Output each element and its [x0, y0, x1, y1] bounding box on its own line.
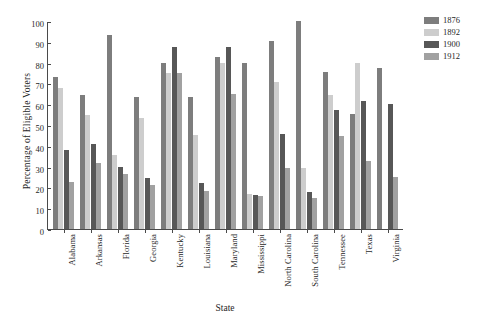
bar-group [107, 22, 129, 229]
y-tick-label: 50 [36, 123, 49, 133]
bar-1892[interactable] [355, 63, 360, 229]
bar-1912[interactable] [204, 191, 209, 229]
bar-1900[interactable] [361, 101, 366, 229]
y-tick-100: 100 [31, 13, 48, 31]
bar-1912[interactable] [123, 174, 128, 229]
bar-1876[interactable] [161, 63, 166, 229]
bar-1900[interactable] [199, 183, 204, 229]
bar-1912[interactable] [69, 182, 74, 229]
x-category-label: Alabama [67, 234, 77, 265]
bar-1876[interactable] [323, 72, 328, 229]
bar-1892[interactable] [274, 82, 279, 229]
bar-1892[interactable] [58, 88, 63, 229]
x-category-label: Louisiana [202, 234, 212, 268]
bar-1892[interactable] [328, 95, 333, 229]
bar-1876[interactable] [242, 63, 247, 229]
bar-group [296, 22, 318, 229]
bar-1900[interactable] [64, 150, 69, 229]
bar-1912[interactable] [231, 94, 236, 229]
x-category-label: Texas [364, 234, 374, 254]
legend-label: 1892 [443, 28, 460, 37]
x-tick-mark [64, 230, 65, 233]
bar-1876[interactable] [215, 57, 220, 229]
legend-label: 1876 [443, 16, 460, 25]
plot-area: 1009080706050403020100 [47, 22, 403, 230]
bar-1912[interactable] [96, 163, 101, 229]
y-tick-label: 60 [36, 102, 49, 112]
bar-group [215, 22, 237, 229]
bar-1912[interactable] [366, 161, 371, 229]
x-category-label: Georgia [148, 234, 158, 262]
bar-1900[interactable] [91, 144, 96, 229]
y-tick-50: 50 [36, 117, 49, 135]
bar-1876[interactable] [188, 97, 193, 229]
bar-1900[interactable] [307, 192, 312, 229]
bar-1912[interactable] [177, 73, 182, 229]
bar-1900[interactable] [253, 195, 258, 229]
x-axis-title: State [47, 303, 403, 313]
bar-1892[interactable] [166, 73, 171, 229]
y-tick-label: 30 [36, 165, 49, 175]
bar-1900[interactable] [172, 47, 177, 229]
bar-1876[interactable] [377, 68, 382, 229]
bar-1876[interactable] [80, 95, 85, 229]
bar-1900[interactable] [118, 167, 123, 229]
x-category-label: Mississippi [256, 234, 266, 274]
bar-1876[interactable] [350, 114, 355, 229]
bar-1900[interactable] [388, 104, 393, 229]
y-tick-40: 40 [36, 138, 49, 156]
bar-1912[interactable] [285, 168, 290, 229]
bar-1912[interactable] [339, 136, 344, 229]
y-tick-30: 30 [36, 159, 49, 177]
legend-swatch-icon [424, 29, 439, 36]
x-category-label: South Carolina [310, 234, 320, 287]
bar-1876[interactable] [296, 21, 301, 229]
y-axis-title: Percentage of Eligible Voters [22, 31, 32, 231]
y-tick-label: 80 [36, 61, 49, 71]
y-tick-label: 70 [36, 81, 49, 91]
legend-entry[interactable]: 1876 [424, 16, 460, 25]
bar-1892[interactable] [220, 63, 225, 229]
legend-entry[interactable]: 1912 [424, 52, 460, 61]
x-tick-mark [334, 230, 335, 233]
legend-entry[interactable]: 1892 [424, 28, 460, 37]
bar-1876[interactable] [134, 97, 139, 229]
bar-1900[interactable] [280, 134, 285, 229]
bar-group [80, 22, 102, 229]
bar-1892[interactable] [85, 115, 90, 229]
bar-1876[interactable] [107, 35, 112, 229]
y-tick-90: 90 [36, 34, 49, 52]
y-tick-label: 40 [36, 144, 49, 154]
bar-group [269, 22, 291, 229]
x-tick-mark [280, 230, 281, 233]
x-tick-mark [91, 230, 92, 233]
bar-1900[interactable] [145, 178, 150, 229]
bar-1892[interactable] [112, 155, 117, 229]
bar-1892[interactable] [193, 135, 198, 229]
bar-1900[interactable] [226, 47, 231, 229]
bar-1876[interactable] [269, 41, 274, 229]
legend-swatch-icon [424, 17, 439, 24]
bar-1892[interactable] [301, 168, 306, 229]
bar-1912[interactable] [393, 177, 398, 229]
bar-1892[interactable] [247, 194, 252, 229]
bar-1912[interactable] [258, 196, 263, 229]
bar-1912[interactable] [312, 198, 317, 229]
legend-entry[interactable]: 1900 [424, 40, 460, 49]
x-category-label: Maryland [229, 234, 239, 268]
bar-groups [48, 22, 403, 229]
y-tick-20: 20 [36, 179, 49, 197]
y-tick-10: 10 [36, 200, 49, 218]
bar-1892[interactable] [139, 118, 144, 229]
bar-group [323, 22, 345, 229]
bar-1912[interactable] [150, 185, 155, 229]
x-category-label: Florida [121, 234, 131, 259]
bar-1900[interactable] [334, 110, 339, 229]
x-tick-mark [172, 230, 173, 233]
bar-1876[interactable] [53, 77, 58, 229]
y-tick-label: 20 [36, 185, 49, 195]
x-tick-mark [361, 230, 362, 233]
x-tick-mark [118, 230, 119, 233]
x-tick-mark [199, 230, 200, 233]
y-tick-label: 90 [36, 40, 49, 50]
